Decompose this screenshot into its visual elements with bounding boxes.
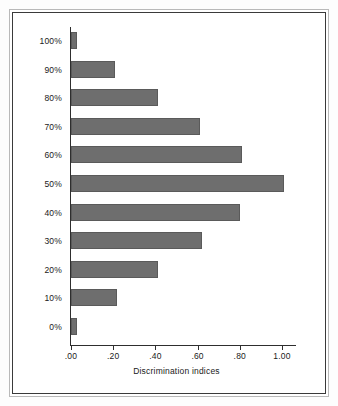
bar-row — [71, 89, 158, 106]
y-axis-tick-label: 20% — [0, 265, 62, 275]
bar[interactable] — [71, 318, 77, 335]
y-axis-tick-label: 80% — [0, 93, 62, 103]
x-axis-line — [70, 345, 296, 346]
x-axis-tick-label: .80 — [234, 351, 246, 361]
bar-row — [71, 204, 240, 221]
y-axis-tick-label: 70% — [0, 122, 62, 132]
figure-container: Difficulty levels 100%90%80%70%60%50%40%… — [0, 0, 338, 406]
bar-row — [71, 61, 115, 78]
bar[interactable] — [71, 118, 200, 135]
bar-row — [71, 318, 77, 335]
x-axis-title: Discrimination indices — [71, 366, 282, 376]
x-axis-tick-mark — [198, 345, 199, 350]
bar-row — [71, 175, 284, 192]
y-axis-tick-label: 60% — [0, 150, 62, 160]
y-axis-tick-label: 90% — [0, 65, 62, 75]
y-axis-tick-label: 50% — [0, 179, 62, 189]
y-axis-tick-label: 30% — [0, 236, 62, 246]
bar[interactable] — [71, 61, 115, 78]
y-axis-tick-label: 100% — [0, 36, 62, 46]
y-axis-tick-label: 40% — [0, 208, 62, 218]
bar[interactable] — [71, 204, 240, 221]
bar-row — [71, 118, 200, 135]
bar-row — [71, 146, 242, 163]
x-axis-tick-label: 1.00 — [273, 351, 290, 361]
y-axis-tick-label: 0% — [0, 322, 62, 332]
bar[interactable] — [71, 32, 77, 49]
x-axis-tick-mark — [71, 345, 72, 350]
x-axis-tick-label: .00 — [65, 351, 77, 361]
bar[interactable] — [71, 289, 117, 306]
bar-row — [71, 289, 117, 306]
y-axis-tick-label: 10% — [0, 293, 62, 303]
bar[interactable] — [71, 261, 158, 278]
x-axis-tick-label: .20 — [107, 351, 119, 361]
x-axis-tick-mark — [282, 345, 283, 350]
bar-row — [71, 261, 158, 278]
x-axis-tick-mark — [240, 345, 241, 350]
bar[interactable] — [71, 146, 242, 163]
bar-row — [71, 232, 202, 249]
bar[interactable] — [71, 89, 158, 106]
x-axis-tick-mark — [113, 345, 114, 350]
bar[interactable] — [71, 175, 284, 192]
bar-row — [71, 32, 77, 49]
x-axis-tick-label: .40 — [149, 351, 161, 361]
bar[interactable] — [71, 232, 202, 249]
x-axis-tick-mark — [155, 345, 156, 350]
x-axis-tick-label: .60 — [191, 351, 203, 361]
